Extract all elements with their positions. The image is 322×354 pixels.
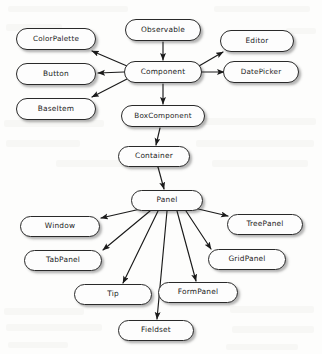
edge-panel-to-tip	[123, 211, 158, 283]
node-label: TreePanel	[246, 220, 283, 227]
node-label: Tip	[107, 290, 119, 297]
node-label: TabPanel	[46, 256, 80, 263]
node-tip[interactable]: Tip	[74, 284, 152, 305]
node-label: ColorPalette	[33, 35, 79, 42]
edges	[92, 42, 228, 319]
node-treepanel[interactable]: TreePanel	[227, 214, 303, 235]
node-boxcomponent[interactable]: BoxComponent	[121, 105, 205, 127]
edge-panel-to-tabpanel	[103, 211, 150, 250]
node-label: Editor	[245, 37, 268, 44]
node-label: FormPanel	[178, 288, 218, 295]
node-editor[interactable]: Editor	[220, 30, 294, 52]
edge-component-to-baseitem	[92, 79, 127, 97]
node-component[interactable]: Component	[124, 61, 202, 83]
edge-boxcomponent-to-container	[156, 128, 160, 145]
node-button[interactable]: Button	[16, 63, 96, 85]
node-formpanel[interactable]: FormPanel	[158, 282, 238, 303]
edge-component-to-colorpalette	[92, 51, 127, 66]
node-baseitem[interactable]: BaseItem	[16, 98, 96, 120]
edge-panel-to-fieldset	[157, 211, 167, 319]
diagram-canvas: ObservableColorPaletteEditorComponentBut…	[0, 0, 322, 354]
node-label: BoxComponent	[134, 112, 192, 119]
node-gridpanel[interactable]: GridPanel	[208, 249, 286, 270]
edge-panel-to-treepanel	[194, 208, 228, 216]
node-datepicker[interactable]: DatePicker	[223, 61, 299, 83]
node-label: Panel	[157, 196, 178, 203]
edge-component-to-button	[98, 72, 124, 73]
node-container[interactable]: Container	[118, 146, 190, 167]
node-label: Window	[45, 222, 75, 229]
node-colorpalette[interactable]: ColorPalette	[16, 28, 96, 50]
node-label: Component	[141, 68, 186, 75]
node-label: GridPanel	[228, 255, 265, 262]
edge-component-to-editor	[199, 52, 223, 66]
node-label: Container	[135, 152, 173, 159]
node-label: DatePicker	[241, 68, 282, 75]
edge-panel-to-gridpanel	[186, 211, 211, 249]
node-observable[interactable]: Observable	[125, 19, 201, 41]
node-label: BaseItem	[38, 105, 74, 112]
edge-layer	[0, 0, 322, 354]
node-panel[interactable]: Panel	[131, 190, 203, 211]
edge-container-to-panel	[158, 167, 164, 189]
node-tabpanel[interactable]: TabPanel	[24, 250, 102, 271]
node-fieldset[interactable]: Fieldset	[118, 320, 194, 341]
node-label: Observable	[141, 26, 185, 33]
node-window[interactable]: Window	[20, 216, 100, 237]
node-label: Fieldset	[141, 326, 171, 333]
node-label: Button	[43, 70, 69, 77]
